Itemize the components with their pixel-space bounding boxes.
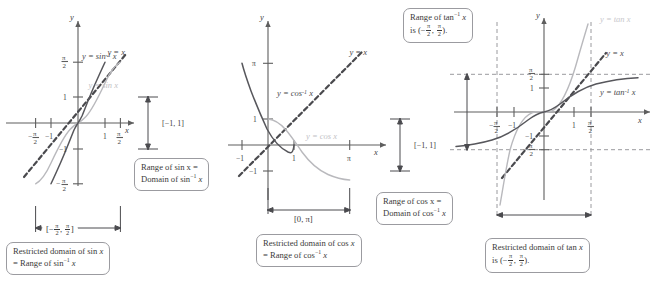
cos-y-axis-name: y <box>259 12 264 22</box>
cos-vertical-interval: [−1, 1] <box>414 141 436 150</box>
cos-vertical-measure <box>390 118 410 172</box>
cos-inverse-label: y = cos-1 x <box>276 88 313 98</box>
sin-restricted-line1: Restricted domain of sin x <box>13 246 103 258</box>
sin-xtick-pi-2: π <box>117 130 121 138</box>
tan-identity-line <box>502 53 606 178</box>
cos-restricted-domain-callout: Restricted domain of cos x = Range of co… <box>256 234 362 267</box>
tan-xtick-neg-1: −1 <box>508 121 516 130</box>
tan-identity-label: y = x <box>605 48 624 58</box>
svg-text:π: π <box>33 130 37 138</box>
svg-text:π: π <box>62 177 66 185</box>
cos-ytick-neg-1: −1 <box>249 167 257 176</box>
sin-vertical-measure <box>138 96 158 150</box>
tan-original-label: y = tan x <box>599 14 631 24</box>
sin-identity-label: y = x <box>106 47 125 57</box>
tan-restricted-domain-callout: Restricted domain of tan x is (−π2, π2). <box>485 238 590 273</box>
svg-text:2: 2 <box>63 62 67 70</box>
sin-ytick-neg-pi-2: − <box>56 179 60 188</box>
tan-restricted-line1: Restricted domain of tan x <box>492 242 583 254</box>
tan-restricted-line2: is (−π2, π2). <box>492 254 583 268</box>
tan-range-line2: is (−π2, π2). <box>410 24 466 38</box>
tan-horizontal-measure <box>497 213 592 218</box>
panel-sin-graph: y = sin-1 x y = x y = sin x y x − π 2 −1… <box>0 0 224 281</box>
cos-original-curve <box>268 119 350 180</box>
cos-xtick-1: 1 <box>292 154 296 163</box>
cos-restricted-line2: = Range of cos−1 x <box>263 250 355 262</box>
tan-xtick-neg-pi-2: − <box>489 121 493 130</box>
panel-tan: y = tan x y = x y = tan-1 x y x − π 2 −1… <box>440 0 667 281</box>
sin-axes <box>6 21 134 186</box>
sin-range-line2: Domain of sin−1 x <box>141 174 202 186</box>
cos-ytick-pi: π <box>252 59 256 68</box>
cos-original-label: y = cos x <box>305 131 337 141</box>
cos-restricted-line1: Restricted domain of cos x <box>263 238 355 250</box>
sin-ytick-neg-1: −1 <box>59 145 67 154</box>
tan-ytick-neg-pi-2: − <box>523 145 527 154</box>
cos-xtick-neg-1: −1 <box>236 154 244 163</box>
cos-range-line2: Domain of cos−1 x <box>383 208 446 220</box>
tan-range-callout: Range of tan−1 x is (−π2, π2). <box>403 8 473 43</box>
sin-restricted-domain-callout: Restricted domain of sin x = Range of si… <box>6 242 110 275</box>
sin-restricted-line2: = Range of sin−1 x <box>13 258 103 270</box>
tan-xtick-pi-2: π <box>588 119 592 127</box>
cos-identity-label: y = x <box>348 47 367 57</box>
svg-text:2: 2 <box>118 138 122 146</box>
tan-ytick-1: 1 <box>530 84 534 93</box>
cos-ytick-1: 1 <box>253 115 257 124</box>
sin-vertical-interval: [−1, 1] <box>162 119 184 128</box>
svg-text:2: 2 <box>495 127 499 135</box>
sin-x-axis-name: x <box>124 125 129 135</box>
cos-tick-labels: −1 1 π π 1 −1 <box>236 59 351 176</box>
cos-horizontal-measure <box>267 188 351 214</box>
svg-text:π: π <box>529 142 533 150</box>
svg-text:2: 2 <box>63 185 67 193</box>
sin-ytick-1: 1 <box>63 93 67 102</box>
sin-y-axis-name: y <box>69 12 74 22</box>
sin-domain-interval: [−π2, π2] <box>42 222 78 239</box>
trig-inverse-figure: y = sin-1 x y = x y = sin x y x − π 2 −1… <box>0 0 667 281</box>
cos-xtick-pi: π <box>347 154 351 163</box>
tan-ytick-pi-2: π <box>529 66 533 74</box>
sin-range-callout: Range of sin x = Domain of sin−1 x <box>134 158 209 191</box>
tan-x-axis-name: x <box>637 115 642 125</box>
cos-domain-interval: [0, π] <box>290 213 317 227</box>
sin-xtick-1: 1 <box>103 132 107 141</box>
tan-xtick-1: 1 <box>572 121 576 130</box>
sin-xtick-neg-pi-2: − <box>28 132 32 141</box>
sin-ytick-pi-2: π <box>62 54 66 62</box>
cos-x-axis-name: x <box>373 147 378 157</box>
svg-text:2: 2 <box>530 150 534 158</box>
sin-original-label: y = sin x <box>87 80 118 90</box>
sin-xtick-neg-1: −1 <box>45 132 53 141</box>
tan-y-axis-name: y <box>535 10 540 20</box>
panel-sin: y = sin-1 x y = x y = sin x y x − π 2 −1… <box>0 0 224 281</box>
svg-text:π: π <box>494 119 498 127</box>
svg-text:2: 2 <box>589 127 593 135</box>
tan-inverse-label: y = tan-1 x <box>599 87 636 97</box>
svg-text:2: 2 <box>34 138 38 146</box>
tan-ytick-neg-1: −1 <box>525 132 533 141</box>
svg-text:2: 2 <box>530 74 534 82</box>
cos-identity-line <box>239 52 362 176</box>
